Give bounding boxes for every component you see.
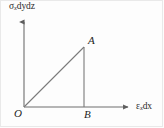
y-axis-label: σxdydz [9, 2, 35, 12]
vertex-label-origin: O [14, 108, 22, 119]
hypotenuse-line-oa [24, 47, 84, 107]
vertex-label-foot: B [84, 109, 91, 120]
y-axis-differentials: dydz [17, 1, 35, 11]
x-axis-differentials: dx [143, 101, 152, 111]
vertex-label-apex: A [88, 35, 95, 46]
x-axis-label: εxdx [136, 102, 152, 112]
figure-canvas: σxdydz εxdx O A B [0, 0, 164, 128]
